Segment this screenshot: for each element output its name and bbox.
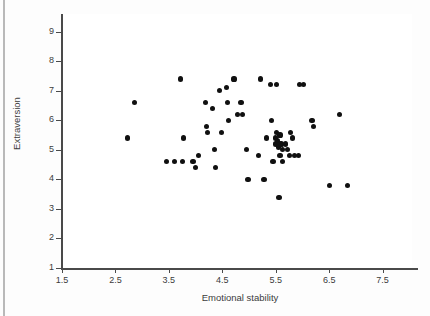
x-tick-label: 6.5 (314, 276, 344, 285)
x-tick-label: 3.5 (154, 276, 184, 285)
data-point (219, 130, 224, 135)
data-point (203, 100, 208, 105)
y-tick-label: 3 (32, 204, 54, 213)
data-point (277, 132, 282, 137)
x-tick-mark (329, 268, 330, 273)
y-axis-line (61, 14, 63, 269)
data-point (172, 159, 177, 164)
data-point (311, 124, 316, 129)
data-point (264, 135, 269, 140)
x-tick-label: 1.5 (47, 276, 77, 285)
y-tick-mark (56, 238, 62, 239)
y-tick-mark (56, 120, 62, 121)
data-point (261, 177, 266, 182)
y-tick-mark (56, 179, 62, 180)
data-point (204, 124, 209, 129)
data-point (280, 159, 285, 164)
data-point (283, 141, 288, 146)
y-tick-label: 8 (32, 56, 54, 65)
y-tick-mark (56, 150, 62, 151)
data-point (178, 76, 183, 81)
x-tick-mark (222, 268, 223, 273)
y-tick-mark (56, 32, 62, 33)
page-edge-rule (3, 0, 5, 316)
data-point (277, 153, 282, 158)
data-point (190, 159, 195, 164)
data-point (270, 159, 275, 164)
y-tick-label: 5 (32, 145, 54, 154)
data-point (125, 135, 130, 140)
data-point (231, 76, 236, 81)
x-tick-mark (276, 268, 277, 273)
y-tick-label: 1 (32, 263, 54, 272)
y-tick-label: 6 (32, 115, 54, 124)
data-point (258, 76, 263, 81)
data-point (269, 118, 274, 123)
y-tick-label: 9 (32, 27, 54, 36)
data-point (288, 130, 293, 135)
y-tick-label: 4 (32, 174, 54, 183)
y-tick-label: 2 (32, 233, 54, 242)
x-tick-mark (169, 268, 170, 273)
x-axis-label: Emotional stability (0, 292, 430, 303)
data-point (132, 100, 137, 105)
x-tick-mark (62, 268, 63, 273)
x-tick-mark (383, 268, 384, 273)
data-point (238, 100, 243, 105)
data-point (276, 195, 281, 200)
data-point (309, 118, 314, 123)
x-tick-label: 4.5 (207, 276, 237, 285)
y-tick-mark (56, 91, 62, 92)
y-tick-mark (56, 209, 62, 210)
data-point (327, 183, 332, 188)
x-tick-label: 2.5 (100, 276, 130, 285)
scatter-plot-figure: 123456789 1.52.53.54.55.56.57.5 Emotiona… (0, 0, 430, 316)
data-point (245, 177, 250, 182)
data-point (205, 130, 210, 135)
y-tick-label: 7 (32, 86, 54, 95)
x-tick-label: 7.5 (368, 276, 398, 285)
y-tick-mark (56, 61, 62, 62)
x-tick-label: 5.5 (261, 276, 291, 285)
x-tick-mark (115, 268, 116, 273)
y-axis-label: Extraversion (11, 84, 22, 164)
data-point (164, 159, 169, 164)
plot-area (62, 14, 412, 268)
